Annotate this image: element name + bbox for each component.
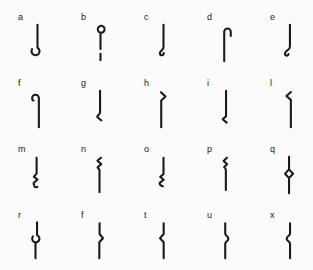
glyph-cell-n: n (69, 137, 132, 203)
glyph-cell-c: c (132, 5, 195, 71)
glyph-cell-t: t (132, 203, 195, 269)
glyph-cell-f: f (6, 71, 69, 137)
glyph-cell-b: b (69, 5, 132, 71)
glyph-cell-g: g (69, 71, 132, 137)
stroke-with-chevron-top-left-icon (277, 89, 302, 129)
glyph-cell-a: a (6, 5, 69, 71)
stroke-with-pointed-bump-right-icon (88, 221, 113, 261)
glyph-cell-o: o (132, 137, 195, 203)
stroke-with-open-ring-bottom-icon (25, 23, 50, 63)
glyph-cell-m: m (6, 137, 69, 203)
glyph-label-i: i (207, 78, 209, 88)
glyph-label-g: g (81, 78, 86, 88)
glyph-label-c: c (144, 12, 149, 22)
glyph-label-h: h (144, 78, 149, 88)
glyph-cell-p: p (195, 137, 258, 203)
glyph-cell-u: u (195, 203, 258, 269)
glyph-label-n: n (81, 144, 86, 154)
stroke-with-open-diamond-middle-icon (277, 155, 302, 195)
glyph-cell-l: l (258, 71, 313, 137)
glyph-label-p: p (207, 144, 212, 154)
glyph-label-e: e (270, 12, 275, 22)
ring-top-stem-and-dash-icon (88, 23, 113, 63)
glyph-label-d: d (207, 12, 212, 22)
glyph-cell-r: r (6, 203, 69, 269)
stroke-with-zigzag-bottom-icon (151, 155, 176, 195)
stroke-with-pointed-bump-left-icon (151, 221, 176, 261)
glyph-cell-i: i (195, 71, 258, 137)
letterform-chart: a b c d e f g h (0, 0, 313, 270)
stroke-with-round-hook-bottom-left-icon (277, 23, 302, 63)
stroke-with-round-crook-top-left-icon (25, 89, 50, 129)
glyph-cell-f-variant: f (69, 203, 132, 269)
glyph-label-t: t (144, 210, 147, 220)
glyph-label-a: a (18, 12, 23, 22)
glyph-label-m: m (18, 144, 26, 154)
glyph-label-f-variant: f (81, 210, 84, 220)
stroke-with-zigzag-lower-icon (25, 155, 50, 195)
stroke-with-chevron-bottom-left-icon (214, 89, 239, 129)
glyph-label-r: r (18, 210, 21, 220)
stroke-with-angled-tail-bottom-icon (88, 89, 113, 129)
glyph-label-o: o (144, 144, 149, 154)
glyph-cell-q: q (258, 137, 313, 203)
glyph-label-u: u (207, 210, 212, 220)
stroke-with-zigzag-top-icon (214, 155, 239, 195)
glyph-label-q: q (270, 144, 275, 154)
glyph-label-f: f (18, 78, 21, 88)
glyph-label-x: x (270, 210, 275, 220)
glyph-label-l: l (270, 78, 272, 88)
stroke-with-round-bump-right-icon (214, 221, 239, 261)
glyph-cell-e: e (258, 5, 313, 71)
stroke-with-round-bump-left-icon (277, 221, 302, 261)
stroke-with-round-crook-top-right-icon (214, 23, 239, 63)
stroke-with-open-ring-middle-icon (25, 221, 50, 261)
stroke-with-chevron-top-right-icon (151, 89, 176, 129)
glyph-cell-x: x (258, 203, 313, 269)
stroke-with-zigzag-upper-icon (88, 155, 113, 195)
letterform-grid: a b c d e f g h (6, 5, 313, 269)
stroke-with-curled-tail-bottom-icon (151, 23, 176, 63)
glyph-label-b: b (81, 12, 86, 22)
glyph-cell-d: d (195, 5, 258, 71)
glyph-cell-h: h (132, 71, 195, 137)
